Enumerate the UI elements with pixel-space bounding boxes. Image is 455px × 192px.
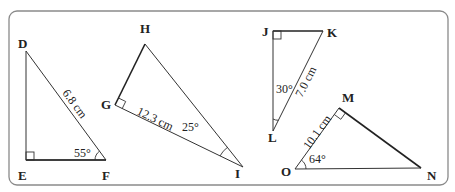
vertex-label-f: F: [102, 168, 110, 183]
vertex-label-l: L: [268, 130, 277, 145]
vertex-label-i: I: [235, 166, 240, 181]
angle-label-o: 64°: [309, 152, 326, 166]
angle-label-l: 30°: [276, 82, 293, 96]
vertex-label-m: M: [342, 90, 354, 105]
vertex-label-e: E: [18, 168, 27, 183]
vertex-label-k: K: [327, 25, 338, 40]
vertex-label-o: O: [281, 164, 291, 179]
vertex-label-h: H: [140, 21, 150, 36]
triangles-diagram: D E F 6.8 cm 55° H G I 12.3 cm 25° J K L…: [0, 0, 455, 192]
vertex-label-j: J: [262, 24, 269, 39]
vertex-label-g: G: [101, 97, 111, 112]
angle-label-f: 55°: [74, 146, 91, 160]
angle-label-i: 25°: [182, 120, 199, 134]
vertex-label-n: N: [427, 168, 437, 183]
vertex-label-d: D: [18, 36, 27, 51]
